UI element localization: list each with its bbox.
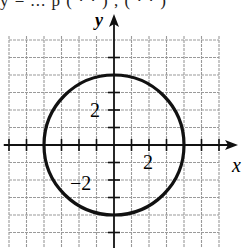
y-tick-label-neg2: −2 bbox=[70, 172, 91, 194]
y-axis-label: y bbox=[93, 10, 104, 30]
circle-graph: y x 2 −2 2 bbox=[0, 0, 246, 248]
y-tick-label-2: 2 bbox=[90, 99, 100, 121]
axes bbox=[4, 14, 238, 248]
x-axis-label: x bbox=[231, 154, 241, 176]
x-tick-label-2: 2 bbox=[143, 151, 153, 173]
